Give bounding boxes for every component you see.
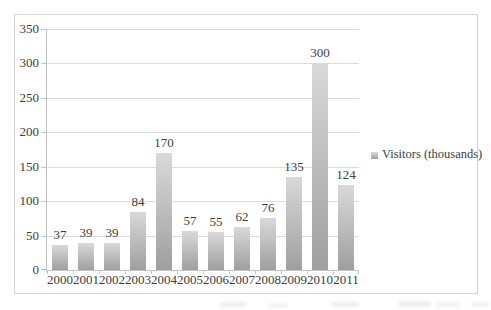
- bar-2008: [260, 218, 276, 270]
- data-label: 62: [236, 210, 249, 224]
- data-label: 135: [284, 160, 304, 174]
- y-axis-tick: [41, 201, 46, 202]
- bar-group: 39: [99, 29, 125, 270]
- bar-2011: [338, 185, 354, 270]
- y-axis-label: 150: [15, 160, 39, 174]
- y-axis-tick: [41, 63, 46, 64]
- data-label: 39: [80, 226, 93, 240]
- bar-2004: [156, 153, 172, 270]
- bar-group: 135: [281, 29, 307, 270]
- bar-group: 124: [333, 29, 359, 270]
- legend-label: Visitors (thousands): [382, 147, 482, 162]
- y-axis-label: 50: [15, 229, 39, 243]
- bar-group: 170: [151, 29, 177, 270]
- bar-2002: [104, 243, 120, 270]
- x-axis-label: 2011: [328, 273, 364, 287]
- cutoff-text-artifact: [268, 303, 288, 308]
- plot-area: 3739398417057556276135300124: [46, 29, 359, 271]
- bar-2003: [130, 212, 146, 270]
- data-label: 84: [132, 195, 145, 209]
- bar-group: 57: [177, 29, 203, 270]
- data-label: 300: [310, 46, 330, 60]
- bar-2007: [234, 227, 250, 270]
- bar-group: 62: [229, 29, 255, 270]
- bar-2006: [208, 232, 224, 270]
- data-label: 76: [262, 201, 275, 215]
- y-axis-label: 350: [15, 22, 39, 36]
- bar-2009: [286, 177, 302, 270]
- cutoff-text-artifact: [331, 302, 359, 307]
- bar-group: 39: [73, 29, 99, 270]
- y-axis-tick: [41, 236, 46, 237]
- data-label: 124: [336, 168, 356, 182]
- y-axis-tick: [41, 132, 46, 133]
- y-axis-label: 100: [15, 194, 39, 208]
- legend-marker-icon: [371, 152, 378, 159]
- y-axis-tick: [41, 29, 46, 30]
- data-label: 39: [106, 226, 119, 240]
- y-axis-tick: [41, 98, 46, 99]
- data-label: 57: [184, 214, 197, 228]
- bar-group: 55: [203, 29, 229, 270]
- screenshot-root: { "chart_data": { "type": "bar", "title"…: [0, 0, 491, 310]
- cutoff-text-artifact: [220, 302, 246, 307]
- bar-2005: [182, 231, 198, 270]
- data-label: 37: [54, 228, 67, 242]
- bar-2010: [312, 63, 328, 270]
- bar-group: 84: [125, 29, 151, 270]
- y-axis-tick: [41, 269, 46, 270]
- data-label: 170: [154, 136, 174, 150]
- data-label: 55: [210, 215, 223, 229]
- bar-group: 76: [255, 29, 281, 270]
- cutoff-text-artifact: [436, 302, 460, 307]
- y-axis-label: 250: [15, 91, 39, 105]
- chart-frame: 3739398417057556276135300124 05010015020…: [14, 14, 478, 294]
- bar-group: 300: [307, 29, 333, 270]
- y-axis-label: 0: [15, 263, 39, 277]
- y-axis-label: 200: [15, 125, 39, 139]
- bar-2001: [78, 243, 94, 270]
- bar-group: 37: [47, 29, 73, 270]
- y-axis-label: 300: [15, 56, 39, 70]
- cutoff-text-artifact: [399, 301, 431, 307]
- cutoff-text-artifact: [471, 302, 489, 307]
- y-axis-tick: [41, 167, 46, 168]
- bar-2000: [52, 245, 68, 270]
